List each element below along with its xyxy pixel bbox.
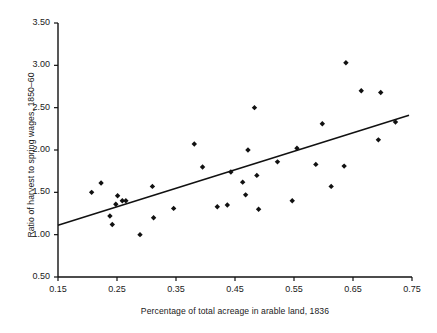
data-point-marker xyxy=(98,180,103,185)
plot-area xyxy=(0,0,437,333)
data-point-marker xyxy=(243,192,248,197)
data-point-marker xyxy=(378,90,383,95)
data-point-marker xyxy=(328,184,333,189)
data-point-marker xyxy=(150,184,155,189)
data-point-marker xyxy=(225,202,230,207)
data-point-marker xyxy=(290,198,295,203)
data-point-marker xyxy=(275,159,280,164)
data-point-marker xyxy=(137,232,142,237)
data-point-marker xyxy=(151,215,156,220)
axis-ticks xyxy=(54,23,412,281)
axis-lines xyxy=(58,23,412,277)
data-point-marker xyxy=(200,164,205,169)
data-point-marker xyxy=(313,162,318,167)
data-point-marker xyxy=(341,163,346,168)
data-point-marker xyxy=(110,222,115,227)
data-point-marker xyxy=(89,190,94,195)
regression-line xyxy=(58,115,409,225)
data-point-marker xyxy=(115,193,120,198)
data-point-marker xyxy=(215,204,220,209)
data-point-marker xyxy=(320,121,325,126)
data-point-marker xyxy=(245,147,250,152)
data-point-marker xyxy=(359,88,364,93)
data-point-marker xyxy=(252,105,257,110)
data-point-marker xyxy=(107,213,112,218)
data-point-marker xyxy=(171,206,176,211)
data-point-marker xyxy=(240,179,245,184)
scatter-chart-figure: Ratio of harvest to spring wages, 1850–6… xyxy=(0,0,437,333)
data-point-marker xyxy=(192,141,197,146)
data-points xyxy=(89,60,398,237)
fit-line xyxy=(58,115,409,225)
data-point-marker xyxy=(254,173,259,178)
data-point-marker xyxy=(256,207,261,212)
data-point-marker xyxy=(343,60,348,65)
data-point-marker xyxy=(376,137,381,142)
